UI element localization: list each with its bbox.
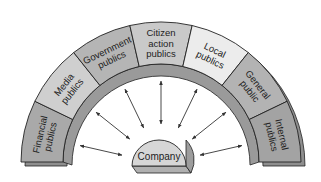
arrow-general xyxy=(192,112,226,139)
arrow-financial xyxy=(80,146,122,156)
segment-citizen: Citizenactionpublics xyxy=(130,22,192,66)
arrow-local xyxy=(178,89,197,128)
company-label: Company xyxy=(138,151,181,162)
arrow-government xyxy=(125,89,144,128)
segment-label-citizen: Citizenactionpublics xyxy=(146,27,176,59)
publics-diagram: FinancialpublicsMediapublicsGovernmentpu… xyxy=(0,0,321,182)
company-block: Company xyxy=(132,140,194,173)
arrow-media xyxy=(96,112,130,139)
arrow-internal xyxy=(200,146,242,156)
